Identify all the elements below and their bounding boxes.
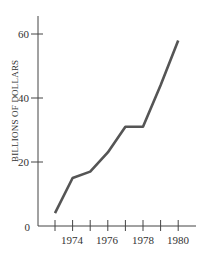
y-ticks bbox=[31, 34, 43, 162]
y-axis-title: BILLIONS OF DOLLARS bbox=[10, 60, 20, 162]
x-tick-label-1976: 1976 bbox=[96, 234, 119, 246]
data-line bbox=[55, 40, 178, 213]
x-tick-label-1980: 1980 bbox=[167, 234, 190, 246]
line-chart: 60 40 20 0 BILLIONS OF DOLLARS 1974 1976… bbox=[0, 0, 210, 258]
x-tick-label-1978: 1978 bbox=[132, 234, 155, 246]
x-tick-label-1974: 1974 bbox=[61, 234, 84, 246]
y-tick-label-0: 0 bbox=[25, 221, 31, 233]
y-tick-label-60: 60 bbox=[18, 28, 30, 40]
